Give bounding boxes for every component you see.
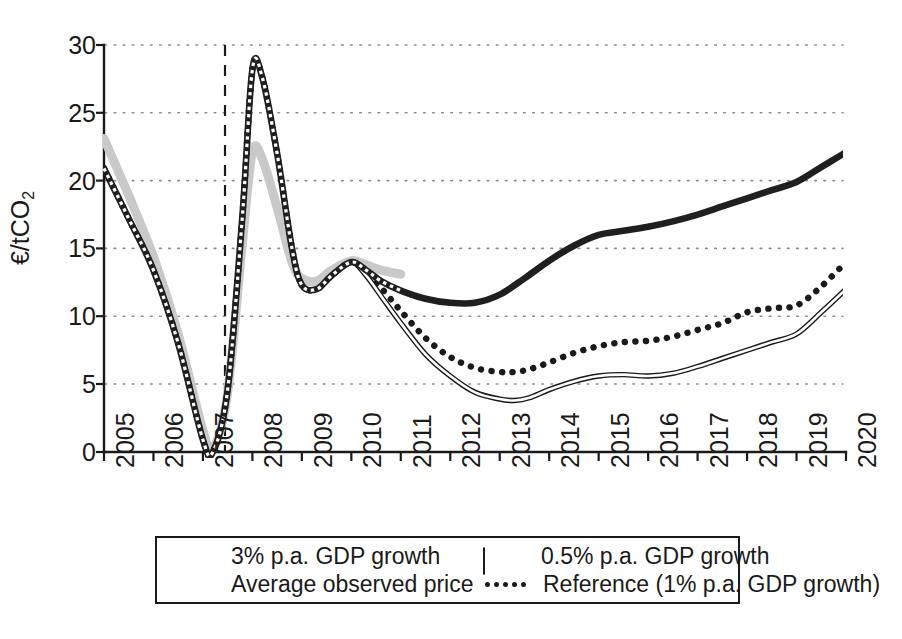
series-05pct-gdp-growth-outline <box>104 58 846 456</box>
legend-swatch-thick-gray-line <box>173 576 221 592</box>
legend-label-3pct: 3% p.a. GDP growth <box>231 543 440 570</box>
x-tick-2009: 2009 <box>311 412 336 468</box>
chart-figure: €/tCO2 30 25 20 15 10 5 0 <box>0 0 902 639</box>
x-tick-2018: 2018 <box>756 412 781 468</box>
series-average-observed-price <box>104 139 401 452</box>
x-tick-2014: 2014 <box>558 412 583 468</box>
legend-swatch-thick-dark-line <box>173 548 221 564</box>
x-tick-2007: 2007 <box>212 412 237 468</box>
legend-item-observed: Average observed price <box>173 571 483 598</box>
legend-label-05pct: 0.5% p.a. GDP growth <box>541 543 769 570</box>
x-tick-2008: 2008 <box>261 412 286 468</box>
gridlines <box>105 45 843 384</box>
legend-swatch-dotted-line <box>483 576 533 592</box>
x-tick-2011: 2011 <box>410 414 435 468</box>
x-tick-2017: 2017 <box>707 412 732 468</box>
x-tick-2019: 2019 <box>806 412 831 468</box>
x-tick-2005: 2005 <box>113 412 138 468</box>
series-05pct-gdp-growth-fill <box>104 58 846 456</box>
x-tick-2015: 2015 <box>608 412 633 468</box>
legend-swatch-thin-outline-line <box>483 548 531 564</box>
legend-item-05pct: 0.5% p.a. GDP growth <box>483 543 880 570</box>
legend-item-3pct: 3% p.a. GDP growth <box>173 543 483 570</box>
legend-item-reference: Reference (1% p.a. GDP growth) <box>483 571 880 598</box>
legend-label-reference: Reference (1% p.a. GDP growth) <box>543 571 880 598</box>
legend: 3% p.a. GDP growth 0.5% p.a. GDP growth … <box>155 536 740 604</box>
series-reference <box>104 58 846 456</box>
x-tick-2010: 2010 <box>360 412 385 468</box>
x-tick-2012: 2012 <box>459 412 484 468</box>
series-3pct-gdp-growth <box>104 58 846 456</box>
legend-label-observed: Average observed price <box>231 571 474 598</box>
x-tick-2016: 2016 <box>657 412 682 468</box>
x-tick-2020: 2020 <box>855 412 880 468</box>
x-tick-2006: 2006 <box>162 412 187 468</box>
x-tick-2013: 2013 <box>509 412 534 468</box>
